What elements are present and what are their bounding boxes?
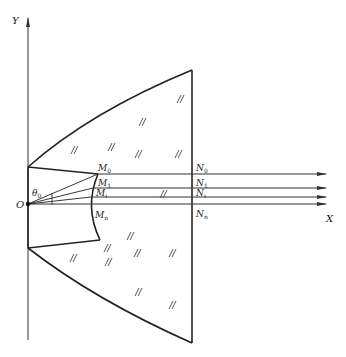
angle-label: θ0: [32, 188, 41, 199]
label-mi: Mi: [95, 188, 107, 199]
optical-diagram: Y X O θ0 M0 M1 Mi Mn N0 N1 Ni Nn: [0, 0, 346, 357]
origin-point: [26, 202, 30, 206]
label-mn: Mn: [94, 210, 108, 221]
x-axis-label: X: [325, 213, 334, 224]
upper-curve: [28, 70, 192, 167]
hatch-marks: [70, 95, 184, 309]
label-nn: Nn: [195, 209, 208, 220]
lens-body: [28, 70, 192, 343]
label-n0: N0: [195, 163, 208, 174]
label-m0: M0: [97, 163, 111, 174]
label-ni: Ni: [195, 188, 206, 199]
parallel-rays: [28, 174, 326, 204]
rays-from-origin: [28, 174, 98, 204]
y-axis-label: Y: [12, 15, 20, 26]
origin-label: O: [16, 199, 24, 210]
top-inner-segment: [28, 167, 98, 174]
bottom-inner-segment: [28, 240, 100, 248]
